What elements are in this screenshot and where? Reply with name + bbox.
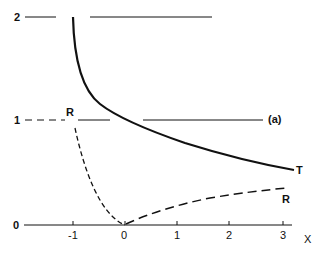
x-tick-0: 0 xyxy=(121,229,127,241)
y-tick-1: 1 xyxy=(14,114,20,126)
x-tick-3: 3 xyxy=(280,229,286,241)
x-axis-label: X xyxy=(304,233,312,245)
series-R-label-right: R xyxy=(282,193,290,205)
x-tick-1: 1 xyxy=(174,229,180,241)
series-T-label: T xyxy=(296,164,303,176)
series-R-left-curve xyxy=(75,128,125,225)
series-R-label-left: R xyxy=(66,106,74,118)
x-axis xyxy=(24,221,292,225)
series-R-right-curve xyxy=(126,188,287,224)
x-tick-minus1: -1 xyxy=(68,229,78,241)
y-tick-2: 2 xyxy=(14,11,20,23)
series-T-curve xyxy=(73,17,294,170)
y-tick-0: 0 xyxy=(13,219,19,231)
chart: 2 1 (a) 0 -1 0 1 2 3 X T R R xyxy=(0,0,328,254)
x-tick-2: 2 xyxy=(226,229,232,241)
annotation-a: (a) xyxy=(268,113,282,125)
